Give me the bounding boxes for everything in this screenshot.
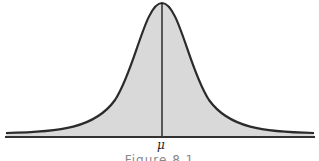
normal-curve-diagram xyxy=(0,0,319,161)
mean-label: μ xyxy=(155,138,167,152)
curve-area xyxy=(6,3,314,137)
figure-caption: Figure 8.1 xyxy=(0,153,319,161)
